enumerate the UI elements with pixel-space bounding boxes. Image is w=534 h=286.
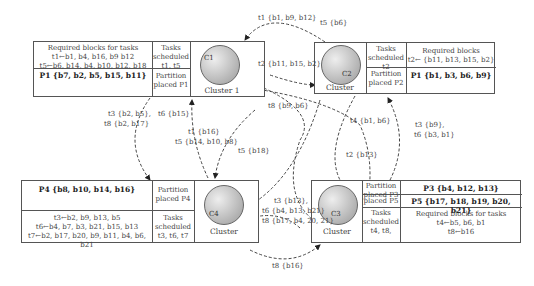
transfer-label: t3 {b9}, — [415, 121, 445, 130]
cluster-c1-box: Required blocks for tasks t1←b1, b4, b16… — [33, 41, 265, 97]
transfer-label: t3 {b2, b5}, — [108, 110, 151, 119]
c2-partition-blocks: P1 {b1, b3, b6, b9} — [406, 71, 496, 80]
cluster-c3-box: C3 Cluster Partition placed P3 placed P5… — [311, 180, 521, 243]
transfer-label: t8 {b16} — [272, 262, 304, 271]
transfer-label: t6 {b3, b1} — [414, 131, 455, 140]
cluster-c2-box: C2 Cluster Tasksscheduledt2 Partitionpla… — [314, 42, 495, 94]
transfer-label: t1 {b1, b9, b12} — [258, 14, 317, 23]
transfer-label: t2 {b11, b15, b2} — [258, 60, 321, 69]
c3-partition-label: Partition — [362, 182, 400, 191]
transfer-label: t3 {b13}, — [274, 197, 308, 206]
transfer-label: t5 {b18} — [238, 147, 270, 156]
transfer-label: t4 {b1, b6} — [350, 117, 391, 126]
c2-required-blocks: Required blockst2← {b11, b13, b15, b2} — [406, 47, 496, 65]
c3-cluster-name: Cluster — [307, 227, 367, 236]
server-cluster-icon: C4 — [204, 185, 244, 225]
c1-partition-blocks: P1 {b7, b2, b5, b15, b11} — [34, 71, 152, 80]
c1-required-blocks: Required blocks for tasks t1←b1, b4, b16… — [34, 44, 152, 71]
transfer-label: t8 {b17, b4, 20, 21} — [262, 217, 334, 226]
c3-placed-p5: placed P5 — [362, 197, 400, 206]
c4-tasks-scheduled: Tasksscheduledt3, t6, t7 — [152, 214, 194, 241]
c4-cluster-name: Cluster — [194, 227, 254, 236]
server-cluster-icon: C2 — [321, 45, 361, 85]
transfer-label: t5 {b6} — [320, 19, 347, 28]
cluster-c4-box: P4 {b8, b10, b14, b16} t3←b2, b9, b13, b… — [21, 180, 259, 243]
c3-tasks-scheduled: Tasksscheduledt4, t8, — [362, 209, 400, 236]
c1-tasks-scheduled: Tasksscheduledt1, t5 — [152, 44, 190, 71]
transfer-label: t5 {b14, b10, b8} — [175, 138, 238, 147]
transfer-label: t8 {b9, b6} — [268, 102, 309, 111]
transfer-label: t6 {b15} — [158, 110, 190, 119]
transfer-label: t6 {b4, b13, b21} — [262, 207, 325, 216]
c2-partition-placed: Partitionplaced P2 — [366, 70, 406, 88]
c2-cluster-name: Cluster — [310, 83, 370, 92]
c4-partition-placed: Partitionplaced P4 — [152, 186, 194, 204]
transfer-label: t1 {b16} — [188, 128, 220, 137]
c1-cluster-name: Cluster 1 — [192, 86, 252, 95]
c3-partition-blocks-p3: P3 {b4, b12, b13} — [400, 184, 522, 193]
transfer-label: t2 {b13} — [346, 151, 378, 160]
server-cluster-icon: C1 — [200, 45, 240, 85]
c2-tasks-scheduled: Tasksscheduledt2 — [366, 45, 406, 72]
c4-partition-blocks: P4 {b8, b10, b14, b16} — [22, 185, 152, 194]
c1-partition-placed: Partitionplaced P1 — [152, 72, 190, 90]
transfer-label: t8 {b2, b17} — [104, 120, 149, 129]
c4-required-blocks: t3←b2, b9, b13, b5t6←b4, b7, b3, b21, b1… — [22, 214, 152, 250]
c3-required-blocks: Required blocks for taskst4←b5, b6, b1t8… — [400, 210, 522, 237]
